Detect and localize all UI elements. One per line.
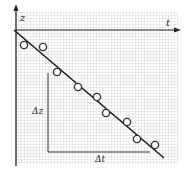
data-point [39,43,46,50]
data-point [151,141,158,148]
data-point [93,93,100,100]
data-point [102,109,109,116]
delta-z-label: Δz [31,106,43,116]
delta-t-label: Δt [94,154,105,164]
data-point [20,41,27,48]
plot-diagram: z t Δz Δt [0,0,188,174]
data-point [53,68,60,75]
data-point [133,135,140,142]
z-axis-label: z [19,12,26,23]
data-point [123,118,130,125]
z-axis-arrow-icon [14,4,19,11]
data-point [74,83,81,90]
